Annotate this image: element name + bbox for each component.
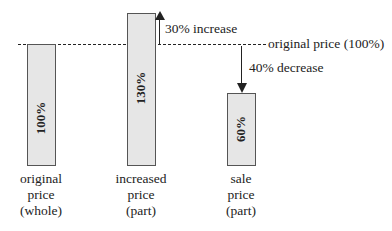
caption-line: (whole) <box>1 203 81 219</box>
reference-label: original price (100%) <box>268 36 384 52</box>
caption-line: price <box>101 187 181 203</box>
caption-increased: increased price (part) <box>101 171 181 219</box>
caption-original: original price (whole) <box>1 171 81 219</box>
bar-value-label: 100% <box>33 88 49 148</box>
caption-sale: sale price (part) <box>201 171 281 219</box>
decrease-arrow <box>241 46 242 86</box>
arrow-down-icon <box>237 83 247 93</box>
caption-line: price <box>201 187 281 203</box>
caption-line: (part) <box>101 203 181 219</box>
increase-arrow <box>159 18 160 44</box>
caption-line: price <box>1 187 81 203</box>
caption-line: increased <box>101 171 181 187</box>
decrease-label: 40% decrease <box>249 60 324 76</box>
bar-value-label: 60% <box>233 99 249 159</box>
caption-line: sale <box>201 171 281 187</box>
caption-line: original <box>1 171 81 187</box>
bar-value-label: 130% <box>133 58 149 118</box>
caption-line: (part) <box>201 203 281 219</box>
arrow-up-icon <box>155 11 165 21</box>
increase-label: 30% increase <box>165 21 237 37</box>
